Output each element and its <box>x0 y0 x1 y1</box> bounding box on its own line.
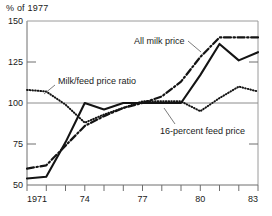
x-tick-labels: 1971 74 77 80 83 <box>27 194 258 204</box>
y-tick-label-75: 75 <box>13 139 23 149</box>
y-tick-label-100: 100 <box>8 98 23 108</box>
x-tick-label-77: 77 <box>137 194 147 204</box>
label-all-milk-price: All milk price <box>134 36 185 46</box>
leader-all-milk-price <box>188 41 201 52</box>
chart-figure: % of 1977 <box>0 0 272 216</box>
y-tick-labels: 150 125 100 75 50 <box>8 16 23 190</box>
x-tick-label-80: 80 <box>195 194 205 204</box>
x-tick-label-1971: 1971 <box>27 194 47 204</box>
label-milk-feed-price-ratio: Milk/feed price ratio <box>58 76 136 86</box>
line-chart-plot: 150 125 100 75 50 1971 74 77 80 83 <box>0 0 272 216</box>
annotation-labels: All milk price Milk/feed price ratio 16-… <box>58 36 245 136</box>
y-tick-label-125: 125 <box>8 57 23 67</box>
label-16-percent-feed-price: 16-percent feed price <box>160 126 245 136</box>
x-tick-label-74: 74 <box>80 194 90 204</box>
series-milk-feed-price-ratio <box>27 87 258 123</box>
x-tick-marks <box>27 185 258 191</box>
y-tick-label-150: 150 <box>8 16 23 26</box>
y-tick-label-50: 50 <box>13 180 23 190</box>
data-series-group <box>27 37 258 178</box>
leader-16-percent-feed-price <box>164 108 175 124</box>
series-16-percent-feed-price <box>27 44 258 178</box>
x-tick-label-83: 83 <box>248 194 258 204</box>
